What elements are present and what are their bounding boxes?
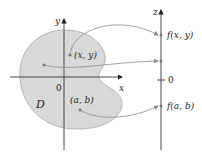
point-fxy — [160, 34, 163, 37]
z-zero-label: 0 — [168, 75, 174, 85]
point-xy — [69, 54, 72, 57]
origin-label: 0 — [56, 83, 62, 93]
fxy-label: f(x, y) — [166, 30, 194, 40]
function-mapping-diagram: y x z 0 0 D (x, y) (a, b) f(x, y) f(a, b… — [0, 0, 202, 154]
point-ab-label: (a, b) — [70, 95, 94, 105]
x-axis-label: x — [119, 83, 124, 93]
region-d — [20, 30, 122, 129]
point-xy-label: (x, y) — [74, 50, 97, 60]
fab-label: f(a, b) — [166, 101, 195, 111]
y-axis-label: y — [54, 16, 61, 26]
region-label: D — [35, 98, 45, 111]
point-mid — [43, 64, 46, 67]
point-ab — [79, 109, 82, 112]
point-fab — [160, 105, 163, 108]
z-axis-label: z — [152, 7, 158, 17]
point-fmid — [160, 60, 163, 63]
